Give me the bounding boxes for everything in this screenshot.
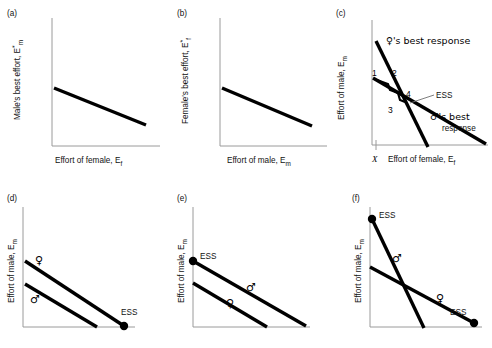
panel-c-step-1: 1 — [372, 68, 377, 78]
panel-c-xlabel: Effort of female, Ef — [388, 155, 455, 166]
panel-e-tag: (e) — [177, 194, 187, 203]
panel-f-plot: (f) ESS ESS ♂ ♀ Effort of male, Em — [330, 185, 492, 348]
panel-e-ess-point — [189, 257, 197, 265]
panel-e-male-symbol: ♂ — [246, 281, 256, 294]
panel-d-male-symbol: ♂ — [30, 293, 40, 306]
panel-c-xlabel-text: Effort of female, E — [388, 155, 454, 164]
panel-f-ess-point-bottom — [470, 319, 478, 327]
figure-container: (a) Male's best effort, E*m Effort of fe… — [0, 0, 492, 348]
panel-a-ylabel: Male's best effort, E*m — [11, 40, 24, 120]
panel-e: (e) ESS ♂ ♀ Effort of male, Em — [170, 185, 335, 348]
panel-a-axes — [52, 18, 160, 146]
panel-c-origin-label: X — [371, 154, 378, 164]
panel-e-axes — [193, 207, 310, 327]
panel-c-male-response-label-line1: ♂'s best — [430, 111, 470, 122]
panel-c-tag: (c) — [336, 9, 346, 18]
panel-a-ylabel-group: Male's best effort, E*m — [11, 40, 24, 120]
panel-e-ylabel-text: Effort of male, E — [177, 244, 186, 303]
panel-c-ess-leader-line — [410, 95, 434, 103]
panel-b-female-best-response-line — [222, 88, 312, 126]
panel-d-ylabel: Effort of male, Em — [7, 239, 18, 303]
panel-d-female-symbol: ♀ — [35, 254, 43, 267]
panel-d-plot: (d) ♀ ♂ ESS Effort of male, Em — [0, 185, 170, 348]
panel-f-ess-label-top: ESS — [379, 211, 396, 220]
panel-a-plot: (a) Male's best effort, E*m Effort of fe… — [0, 0, 170, 185]
panel-b: (b) Female's best effort, E*f Effort of … — [170, 0, 335, 185]
panel-d-ylabel-text: Effort of male, E — [7, 244, 16, 303]
panel-a-xlabel-text: Effort of female, E — [55, 156, 121, 165]
panel-f-female-symbol: ♀ — [436, 292, 444, 305]
panel-d-axes — [23, 207, 135, 327]
panel-b-ylabel-text: Female's best effort, E — [181, 42, 190, 124]
panel-c-xlabel-sub: f — [453, 159, 455, 166]
panel-f-ess-point-top — [368, 215, 376, 223]
panel-d-ylabel-group: Effort of male, Em — [7, 239, 18, 303]
panel-e-ess-label: ESS — [200, 252, 217, 261]
panel-c-step-4: 4 — [406, 89, 411, 99]
panel-f-ylabel-sub: m — [358, 239, 365, 244]
panel-a-xlabel: Effort of female, Ef — [55, 156, 122, 167]
panel-f: (f) ESS ESS ♂ ♀ Effort of male, Em — [330, 185, 492, 348]
panel-c-female-response-label: ♀'s best response — [386, 35, 470, 46]
panel-c: (c) 1 2 3 4 ESS ♀'s best response ♂'s be… — [330, 0, 492, 185]
panel-c-ylabel: Effort of male, Em — [337, 56, 348, 120]
panel-c-ylabel-sub: m — [341, 56, 348, 61]
panel-b-ylabel-group: Female's best effort, E*f — [179, 38, 192, 124]
panel-c-step-2: 2 — [392, 68, 397, 78]
panel-b-plot: (b) Female's best effort, E*f Effort of … — [170, 0, 335, 185]
panel-b-xlabel-sub: m — [286, 160, 291, 167]
panel-c-plot: (c) 1 2 3 4 ESS ♀'s best response ♂'s be… — [330, 0, 492, 185]
panel-b-ylabel-sub: f — [185, 38, 192, 40]
panel-a-ylabel-sub: m — [17, 40, 24, 45]
panel-d-ylabel-sub: m — [11, 239, 18, 244]
panel-f-ylabel-text: Effort of male, E — [354, 244, 363, 303]
panel-e-ylabel-sub: m — [181, 239, 188, 244]
panel-a-male-best-response-line — [54, 88, 146, 125]
panel-b-xlabel: Effort of male, Em — [227, 156, 291, 167]
panel-f-ylabel: Effort of male, Em — [354, 239, 365, 303]
panel-c-ess-label: ESS — [436, 91, 453, 100]
panel-a: (a) Male's best effort, E*m Effort of fe… — [0, 0, 170, 185]
panel-f-tag: (f) — [352, 194, 360, 203]
panel-c-male-response-label-line2: response — [442, 124, 476, 133]
panel-f-male-symbol: ♂ — [392, 252, 402, 265]
panel-b-tag: (b) — [177, 9, 187, 18]
panel-a-xlabel-sub: f — [120, 160, 122, 167]
panel-a-ylabel-text: Male's best effort, E — [13, 48, 22, 120]
panel-a-tag: (a) — [7, 9, 17, 18]
panel-d: (d) ♀ ♂ ESS Effort of male, Em — [0, 185, 170, 348]
panel-b-ylabel: Female's best effort, E*f — [179, 38, 192, 124]
panel-f-ess-label-bottom: ESS — [450, 308, 467, 317]
panel-e-ylabel: Effort of male, Em — [177, 239, 188, 303]
panel-e-plot: (e) ESS ♂ ♀ Effort of male, Em — [170, 185, 335, 348]
panel-f-ylabel-group: Effort of male, Em — [354, 239, 365, 303]
panel-d-ess-label: ESS — [121, 308, 138, 317]
panel-e-female-symbol: ♀ — [226, 297, 234, 310]
panel-c-ylabel-group: Effort of male, Em — [337, 56, 348, 120]
panel-c-step-3: 3 — [388, 105, 393, 115]
panel-c-ylabel-text: Effort of male, E — [337, 61, 346, 120]
panel-d-ess-point — [120, 322, 128, 330]
panel-b-xlabel-text: Effort of male, E — [227, 156, 286, 165]
panel-d-tag: (d) — [7, 194, 17, 203]
panel-e-ylabel-group: Effort of male, Em — [177, 239, 188, 303]
